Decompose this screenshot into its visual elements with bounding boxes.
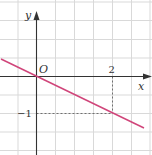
- grid: [0, 0, 152, 155]
- y-axis-arrow-icon: [34, 11, 40, 20]
- y-axis: [34, 11, 40, 155]
- x-axis-label: x: [138, 80, 145, 93]
- x-axis: [0, 74, 152, 80]
- x-tick-label-2: 2: [109, 64, 115, 75]
- origin-label: O: [39, 63, 48, 76]
- function-graph: y x O 2 −1: [0, 0, 152, 155]
- y-axis-label: y: [24, 9, 32, 22]
- x-axis-arrow-icon: [143, 74, 152, 80]
- y-tick-label-neg1: −1: [17, 108, 32, 119]
